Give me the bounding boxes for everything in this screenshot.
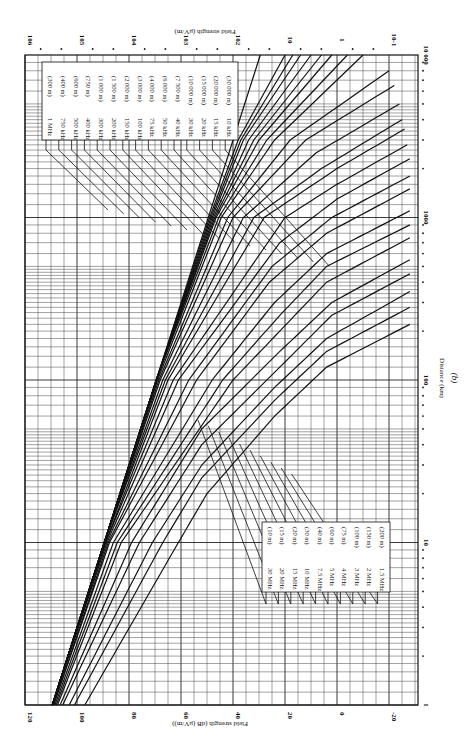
uv-minor-tick	[320, 48, 322, 50]
legend-entry-wavelength: (10 000 m)	[187, 76, 195, 105]
db-tick-label: 100	[78, 712, 86, 723]
distance-minor-tick	[422, 428, 424, 430]
distance-minor-tick	[422, 444, 424, 446]
distance-minor-tick	[422, 139, 424, 141]
legend-entry-wavelength: (15 m)	[278, 527, 286, 545]
distance-minor-tick	[422, 330, 424, 332]
uv-minor-tick	[216, 48, 218, 50]
legend-entry-freq: 150 kHz	[124, 118, 131, 140]
distance-minor-tick	[422, 578, 424, 580]
distance-minor-tick	[422, 567, 424, 569]
legend-entry-wavelength: (1 500 m)	[110, 76, 118, 102]
distance-minor-tick	[422, 281, 424, 283]
legend-entry-wavelength: (15 000 m)	[200, 76, 208, 105]
legend-entry-freq: 40 kHz	[175, 118, 182, 137]
legend-entry-wavelength: (60 m)	[328, 527, 336, 545]
uv-minor-tick	[352, 48, 354, 50]
uv-minor-tick	[92, 48, 94, 50]
legend-upper: 1 MHz(300 m)750 kHz(400 m)500 kHz(600 m)…	[42, 62, 238, 140]
legend-entry-freq: 20 MHz	[279, 568, 286, 590]
legend-entry-wavelength: (30 000 m)	[225, 76, 233, 105]
distance-minor-tick	[422, 591, 424, 593]
uv-tick-label: 10-1	[390, 34, 398, 47]
legend-entry-freq: 3 MHz	[354, 568, 361, 586]
legend-entry-wavelength: (4 000 m)	[148, 76, 156, 102]
uv-minor-tick	[248, 48, 250, 50]
legend-entry-wavelength: (150 m)	[365, 527, 373, 548]
db-tick-label: 120	[26, 712, 34, 723]
legend-entry-freq: 100 kHz	[137, 118, 144, 140]
legend-entry-wavelength: (75 m)	[340, 527, 348, 545]
uv-tick-label: 104	[130, 35, 138, 46]
legend-entry-freq: 10 kHz	[226, 118, 233, 137]
legend-entry-freq: 15 MHz	[292, 568, 299, 590]
legend-entry-wavelength: (40 m)	[316, 527, 324, 545]
uv-minor-tick	[60, 48, 62, 50]
db-tick-label: 60	[182, 712, 190, 720]
distance-axis-ticks: 110100100010 000	[422, 45, 430, 707]
distance-tick-label: 10 000	[422, 45, 430, 65]
distance-tick-label: 1	[422, 703, 430, 707]
distance-minor-tick	[422, 70, 424, 72]
legend-leader	[59, 140, 124, 214]
figure-caption: (b)	[450, 373, 460, 384]
distance-minor-tick	[422, 655, 424, 657]
legend-entry-freq: 15 kHz	[213, 118, 220, 137]
legend-leader	[110, 140, 187, 230]
uv-tick-label: 10	[286, 37, 294, 45]
legend-entry-wavelength: (3 000 m)	[136, 76, 144, 102]
legend-entry-freq: 10 MHz	[304, 568, 311, 590]
legend-entry-freq: 750 kHz	[60, 118, 67, 140]
distance-minor-tick	[422, 549, 424, 551]
legend-entry-wavelength: (2 000 m)	[123, 76, 131, 102]
distance-minor-tick	[422, 103, 424, 105]
legend-entry-freq: 75 kHz	[149, 118, 156, 137]
legend-entry-wavelength: (30 m)	[303, 527, 311, 545]
legend-entry-freq: 1 MHz	[47, 118, 54, 136]
legend-lower: 30 MHz(10 m)20 MHz(15 m)15 MHz(20 m)10 M…	[262, 522, 390, 592]
legend-entry-freq: 300 kHz	[98, 118, 105, 140]
distance-tick-label: 1000	[422, 211, 430, 226]
distance-minor-tick	[422, 395, 424, 397]
uv-tick-label: 106	[26, 35, 34, 46]
legend-entry-wavelength: (10 m)	[266, 527, 274, 545]
legend-entry-freq: 400 kHz	[85, 118, 92, 140]
legend-entry-freq: 5 MHz	[329, 568, 336, 586]
distance-minor-tick	[422, 557, 424, 559]
legend-entry-freq: 7.5 MHz	[317, 568, 324, 591]
uv-minor-tick	[40, 48, 42, 50]
curve-1-5-mhz	[54, 176, 410, 705]
legend-entry-wavelength: (20 000 m)	[212, 76, 220, 105]
legend-entry-freq: 30 kHz	[188, 118, 195, 137]
distance-minor-tick	[422, 242, 424, 244]
curve-30-mhz	[85, 324, 410, 705]
uv-minor-tick	[112, 48, 114, 50]
distance-minor-tick	[422, 119, 424, 121]
db-tick-label: -20	[390, 712, 398, 722]
curve-7-5-mhz	[60, 260, 410, 705]
curve-5-mhz	[58, 238, 410, 705]
legend-entry-freq: 1.5 MHz	[379, 568, 386, 591]
uv-minor-tick	[144, 48, 146, 50]
distance-minor-tick	[422, 79, 424, 81]
legend-leader	[198, 420, 266, 604]
legend-entry-freq: 30 MHz	[267, 568, 274, 590]
legend-entry-wavelength: (750 m)	[84, 76, 92, 97]
uv-axis-title: Field strength (μV/m)	[174, 28, 236, 36]
distance-axis-title: Distance (km)	[438, 358, 446, 399]
curve-750-khz	[52, 145, 407, 705]
distance-tick-label: 10	[422, 539, 430, 547]
db-tick-label: 0	[338, 712, 346, 716]
legend-entry-wavelength: (1 000 m)	[97, 76, 105, 102]
curve-3-mhz	[55, 211, 410, 705]
uv-minor-tick	[372, 48, 374, 50]
distance-minor-tick	[422, 404, 424, 406]
db-tick-label: 80	[130, 712, 138, 720]
distance-minor-tick	[422, 232, 424, 234]
distance-minor-tick	[422, 253, 424, 255]
uv-minor-tick	[300, 48, 302, 50]
db-tick-label: 20	[286, 712, 294, 720]
legend-entry-wavelength: (600 m)	[72, 76, 80, 97]
legend-entry-wavelength: (100 m)	[353, 527, 361, 548]
legend-entry-wavelength: (200 m)	[378, 527, 386, 548]
